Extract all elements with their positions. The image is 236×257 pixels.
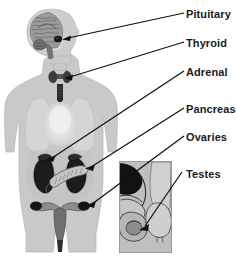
label-testes: Testes <box>186 168 221 180</box>
label-thyroid: Thyroid <box>186 37 227 49</box>
endocrine-system-diagram: Pituitary Thyroid Adrenal Pancreas Ovari… <box>0 0 236 257</box>
label-pituitary: Pituitary <box>186 8 231 20</box>
testis <box>126 221 142 235</box>
label-ovaries: Ovaries <box>186 131 227 143</box>
label-pancreas: Pancreas <box>186 103 236 115</box>
label-adrenal: Adrenal <box>186 66 228 78</box>
pituitary-gland <box>54 36 62 42</box>
left-ovary <box>30 202 42 211</box>
male-reproductive-inset <box>108 162 172 253</box>
vagina <box>57 240 63 252</box>
leader-pituitary <box>68 13 184 38</box>
lungs-heart-area <box>25 98 94 154</box>
leader-thyroid <box>70 42 184 77</box>
